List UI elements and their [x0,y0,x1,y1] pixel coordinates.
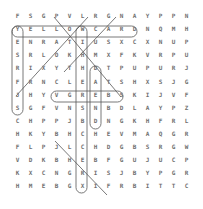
grid-cell[interactable]: G [167,140,180,153]
grid-cell[interactable]: P [115,61,128,74]
grid-cell[interactable]: N [102,114,115,127]
grid-cell[interactable]: R [167,114,180,127]
grid-cell[interactable]: A [50,35,63,48]
grid-cell[interactable]: V [115,127,128,140]
grid-cell[interactable]: F [37,101,50,114]
grid-cell[interactable]: B [102,88,115,101]
grid-cell[interactable]: B [128,140,141,153]
grid-cell[interactable]: L [76,9,89,22]
grid-cell[interactable]: V [50,88,63,101]
grid-cell[interactable]: N [115,9,128,22]
grid-cell[interactable]: O [50,48,63,61]
grid-cell[interactable]: T [63,35,76,48]
grid-cell[interactable]: I [89,166,102,179]
grid-cell[interactable]: U [89,35,102,48]
grid-cell[interactable]: T [167,179,180,192]
grid-cell[interactable]: X [37,61,50,74]
grid-cell[interactable]: V [63,9,76,22]
grid-cell[interactable]: H [11,127,24,140]
grid-cell[interactable]: U [154,61,167,74]
grid-cell[interactable]: G [115,114,128,127]
grid-cell[interactable]: R [24,75,37,88]
grid-cell[interactable]: P [167,9,180,22]
grid-cell[interactable]: P [167,48,180,61]
grid-cell[interactable]: C [167,153,180,166]
grid-cell[interactable]: F [102,153,115,166]
grid-cell[interactable]: B [50,127,63,140]
grid-cell[interactable]: F [180,88,193,101]
grid-cell[interactable]: Q [154,127,167,140]
grid-cell[interactable]: P [50,9,63,22]
grid-cell[interactable]: U [167,35,180,48]
grid-cell[interactable]: S [141,140,154,153]
grid-cell[interactable]: S [115,88,128,101]
grid-cell[interactable]: P [154,9,167,22]
grid-cell[interactable]: S [11,48,24,61]
grid-cell[interactable]: E [24,22,37,35]
grid-cell[interactable]: D [24,153,37,166]
grid-cell[interactable]: L [24,140,37,153]
grid-cell[interactable]: R [115,22,128,35]
grid-cell[interactable]: C [128,35,141,48]
grid-cell[interactable]: C [76,140,89,153]
grid-cell[interactable]: H [76,61,89,74]
grid-cell[interactable]: G [63,179,76,192]
grid-cell[interactable]: U [128,153,141,166]
grid-cell[interactable]: Y [50,61,63,74]
grid-cell[interactable]: O [63,22,76,35]
grid-cell[interactable]: I [141,88,154,101]
grid-cell[interactable]: Q [154,22,167,35]
grid-cell[interactable]: G [115,140,128,153]
grid-cell[interactable]: Y [154,101,167,114]
grid-cell[interactable]: S [102,166,115,179]
grid-cell[interactable]: G [115,153,128,166]
grid-cell[interactable]: F [11,9,24,22]
grid-cell[interactable]: R [11,61,24,74]
grid-cell[interactable]: J [115,166,128,179]
grid-cell[interactable]: L [63,140,76,153]
grid-cell[interactable]: P [50,114,63,127]
grid-cell[interactable]: E [89,88,102,101]
grid-cell[interactable]: H [24,114,37,127]
grid-cell[interactable]: Y [141,9,154,22]
grid-cell[interactable]: L [128,101,141,114]
grid-cell[interactable]: K [63,48,76,61]
grid-cell[interactable]: X [24,166,37,179]
grid-cell[interactable]: A [128,9,141,22]
grid-cell[interactable]: G [37,9,50,22]
grid-cell[interactable]: H [180,22,193,35]
grid-cell[interactable]: R [167,61,180,74]
grid-cell[interactable]: F [11,75,24,88]
grid-cell[interactable]: P [141,61,154,74]
grid-cell[interactable]: V [141,48,154,61]
grid-cell[interactable]: L [37,22,50,35]
grid-cell[interactable]: V [167,88,180,101]
grid-cell[interactable]: L [37,48,50,61]
grid-cell[interactable]: J [11,88,24,101]
grid-cell[interactable]: W [76,22,89,35]
grid-cell[interactable]: J [154,88,167,101]
grid-cell[interactable]: R [115,179,128,192]
grid-cell[interactable]: U [154,153,167,166]
grid-cell[interactable]: R [37,35,50,48]
grid-cell[interactable]: E [76,75,89,88]
grid-cell[interactable]: D [102,140,115,153]
grid-cell[interactable]: E [37,179,50,192]
grid-cell[interactable]: V [11,153,24,166]
grid-cell[interactable]: X [141,75,154,88]
grid-cell[interactable]: X [102,48,115,61]
grid-cell[interactable]: S [76,101,89,114]
grid-cell[interactable]: K [11,166,24,179]
grid-cell[interactable]: E [102,127,115,140]
grid-cell[interactable]: S [24,9,37,22]
grid-cell[interactable]: C [37,166,50,179]
grid-cell[interactable]: P [180,35,193,48]
grid-cell[interactable]: S [102,35,115,48]
grid-cell[interactable]: C [50,75,63,88]
grid-cell[interactable]: M [167,22,180,35]
grid-cell[interactable]: H [128,75,141,88]
grid-cell[interactable]: Y [141,166,154,179]
grid-cell[interactable]: A [102,22,115,35]
grid-cell[interactable]: R [180,127,193,140]
grid-cell[interactable]: R [154,140,167,153]
